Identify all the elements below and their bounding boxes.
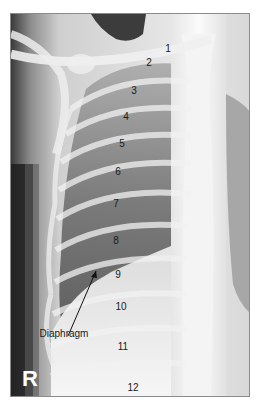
rib-label-2: 2 bbox=[146, 58, 152, 68]
diaphragm-label: Diaphragm bbox=[40, 329, 89, 339]
rib-label-6: 6 bbox=[115, 167, 121, 177]
side-marker-right: R bbox=[22, 368, 38, 390]
rib-label-4: 4 bbox=[123, 112, 129, 122]
rib-label-7: 7 bbox=[113, 199, 119, 209]
rib-label-1: 1 bbox=[165, 44, 171, 54]
rib-label-10: 10 bbox=[115, 302, 126, 312]
xray-image-frame: 1 2 3 4 5 6 7 8 9 10 11 12 Diaphragm R bbox=[10, 13, 250, 397]
rib-label-3: 3 bbox=[131, 86, 137, 96]
rib-label-5: 5 bbox=[119, 139, 125, 149]
rib-label-11: 11 bbox=[118, 342, 128, 352]
rib-label-9: 9 bbox=[115, 270, 121, 280]
rib-label-12: 12 bbox=[127, 383, 138, 393]
xray-image bbox=[11, 14, 250, 397]
rib-label-8: 8 bbox=[113, 236, 119, 246]
